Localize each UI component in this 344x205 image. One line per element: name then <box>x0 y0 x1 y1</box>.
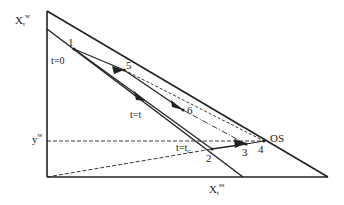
point-6-label: 6 <box>187 105 193 116</box>
y-axis-label: Xtw <box>15 15 30 26</box>
point-4-label: 4 <box>258 144 264 155</box>
point-6-dot <box>181 108 184 111</box>
t0-label: t=0 <box>51 56 64 66</box>
point-os-label: OS <box>270 133 284 144</box>
point-2-label: 2 <box>206 153 212 164</box>
point-3-label: 3 <box>242 147 248 158</box>
diagram-canvas <box>0 0 344 205</box>
point-5-label: 5 <box>126 60 132 71</box>
path-5-os-dashed <box>124 70 264 141</box>
tc-label: t=tc <box>176 143 190 153</box>
point-2-dot <box>210 147 213 150</box>
yw-label: yw <box>32 134 43 145</box>
tt-label: t=t <box>130 110 141 120</box>
point-1-label: 1 <box>68 37 74 48</box>
arrow-head-tt <box>134 91 146 101</box>
arrow-head-6 <box>171 100 183 110</box>
x-axis-label: Xtss <box>209 184 224 195</box>
